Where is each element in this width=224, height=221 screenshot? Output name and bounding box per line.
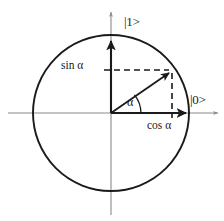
ket-zero-axis-label: |0>: [190, 93, 206, 106]
cos-alpha-label: cos α: [147, 120, 171, 132]
angle-arc: [135, 95, 142, 113]
unit-circle-figure: |1> |0> sin α cos α α: [0, 0, 224, 221]
sin-alpha-label: sin α: [61, 60, 83, 72]
angle-alpha-label: α: [127, 96, 133, 108]
figure-canvas: [0, 0, 224, 221]
ket-one-axis-label: |1>: [124, 15, 140, 28]
